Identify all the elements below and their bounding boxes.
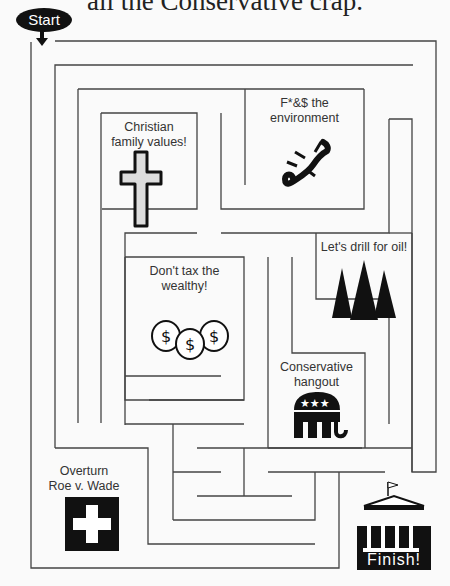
label-line: Conservative xyxy=(268,360,365,375)
svg-text:$: $ xyxy=(185,335,195,354)
label-line: Christian xyxy=(101,120,197,135)
room-christian-label: Christian family values! xyxy=(101,120,197,150)
label-line: Don't tax the xyxy=(125,264,244,279)
label-line: environment xyxy=(245,111,364,126)
label-line: hangout xyxy=(268,375,365,390)
room-hangout-label: Conservative hangout xyxy=(268,360,365,390)
label-line: family values! xyxy=(101,135,197,150)
room-environment-label: F*&$ the environment xyxy=(245,96,364,126)
svg-text:★★★: ★★★ xyxy=(300,397,330,410)
pine-trees-icon xyxy=(330,258,400,322)
svg-text:$: $ xyxy=(209,327,219,346)
medical-cross-icon xyxy=(65,497,119,551)
start-marker: Start xyxy=(16,8,72,32)
svg-text:$: $ xyxy=(161,327,171,346)
finish-label: Finish! xyxy=(357,551,431,569)
gop-elephant-icon: ★★★ xyxy=(292,392,350,440)
cross-icon xyxy=(118,150,164,230)
lizard-icon xyxy=(275,134,333,192)
label-line: Overturn xyxy=(35,464,133,479)
label-line: Roe v. Wade xyxy=(35,479,133,494)
room-oil-label: Let's drill for oil! xyxy=(316,240,412,255)
money-bags-icon: $$$ xyxy=(150,306,230,360)
label-line: wealthy! xyxy=(125,279,244,294)
label-line: F*&$ the xyxy=(245,96,364,111)
room-roe-label: Overturn Roe v. Wade xyxy=(35,464,133,494)
room-tax-label: Don't tax the wealthy! xyxy=(125,264,244,294)
